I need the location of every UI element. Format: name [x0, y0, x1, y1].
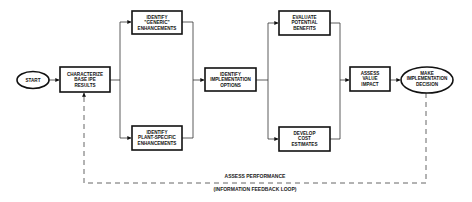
node-evaluate-line1: EVALUATE: [292, 15, 316, 20]
node-assess-line2: VALUE: [362, 76, 377, 81]
node-evaluate-benefits: EVALUATE POTENTIAL BENEFITS: [279, 11, 330, 35]
node-identify-plant-specific: IDENTIFY PLANT-SPECIFIC ENHANCEMENTS: [132, 126, 182, 150]
feedback-sublabel: (INFORMATION FEEDBACK LOOP): [214, 186, 297, 192]
node-identify-generic: IDENTIFY "GENERIC" ENHANCEMENTS: [132, 11, 182, 34]
node-characterize-line1: CHARACTERIZE: [67, 72, 103, 77]
line-merge-enhancements: [182, 22, 193, 138]
node-cost-line2: COST: [298, 136, 311, 141]
node-characterize: CHARACTERIZE BASE IPE RESULTS: [60, 67, 110, 92]
node-identify-options: IDENTIFY IMPLEMENTATION OPTIONS: [205, 68, 256, 91]
node-start-label: START: [26, 78, 41, 83]
node-evaluate-line3: BENEFITS: [293, 26, 316, 31]
connectors: [49, 22, 426, 183]
node-make-decision: MAKE IMPLEMENTATION DECISION: [401, 67, 453, 93]
node-characterize-line2: BASE IPE: [74, 77, 95, 82]
node-cost-line3: ESTIMATES: [292, 142, 318, 147]
node-assess-line1: ASSESS: [361, 71, 380, 76]
node-cost-line1: DEVELOP: [294, 131, 316, 136]
line-merge-evaluation: [330, 23, 340, 139]
node-options-line2: IMPLEMENTATION: [210, 77, 251, 82]
node-plant-line2: PLANT-SPECIFIC: [138, 135, 176, 140]
node-decision-line2: IMPLEMENTATION: [407, 76, 448, 81]
node-start: START: [17, 72, 49, 89]
node-options-line3: OPTIONS: [220, 83, 241, 88]
flow-diagram: START CHARACTERIZE BASE IPE RESULTS IDEN…: [0, 0, 472, 202]
node-plant-line1: IDENTIFY: [147, 130, 168, 135]
arrow-to-evaluate: [268, 23, 278, 139]
node-decision-line3: DECISION: [416, 82, 439, 87]
node-decision-line1: MAKE: [420, 71, 434, 76]
node-options-line1: IDENTIFY: [220, 72, 241, 77]
node-plant-line3: ENHANCEMENTS: [138, 141, 177, 146]
feedback-label: ASSESS PERFORMANCE: [225, 173, 287, 179]
node-generic-line3: ENHANCEMENTS: [138, 26, 177, 31]
node-evaluate-line2: POTENTIAL: [291, 20, 317, 25]
node-generic-line2: "GENERIC": [144, 20, 169, 25]
node-characterize-line3: RESULTS: [74, 83, 95, 88]
arrow-to-generic: [120, 22, 131, 138]
node-assess-line3: IMPACT: [361, 82, 378, 87]
node-generic-line1: IDENTIFY: [147, 15, 168, 20]
node-assess-value: ASSESS VALUE IMPACT: [350, 67, 390, 91]
node-develop-cost: DEVELOP COST ESTIMATES: [279, 127, 330, 151]
